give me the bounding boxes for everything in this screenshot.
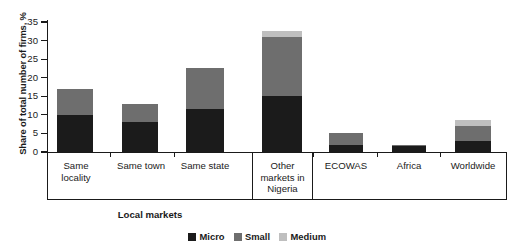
bar-7 — [455, 120, 491, 152]
legend-label: Micro — [200, 232, 225, 241]
bar-segment-micro — [262, 96, 302, 152]
legend-swatch-icon — [234, 233, 242, 241]
y-axis-line — [47, 20, 48, 154]
bar-segment-micro — [186, 109, 224, 152]
bar-segment-small — [329, 133, 363, 144]
legend-swatch-icon — [279, 233, 287, 241]
y-tick-label: 0 — [18, 147, 38, 157]
bar-segment-micro — [122, 122, 158, 152]
group-separator-mid2 — [312, 153, 313, 199]
y-tick-mark — [41, 114, 47, 115]
y-tick-label: 10 — [18, 110, 38, 120]
legend-swatch-icon — [188, 233, 196, 241]
x-tick-mark — [377, 152, 378, 157]
legend-label: Small — [245, 232, 270, 241]
bar-3 — [186, 68, 224, 152]
category-label-2: Same town — [110, 160, 172, 172]
group-underline-left — [47, 199, 253, 200]
legend-item-medium: Medium — [279, 232, 326, 241]
category-label-5: ECOWAS — [314, 160, 378, 172]
category-label-4: Other markets in Nigeria — [252, 160, 313, 195]
y-tick-mark — [41, 59, 47, 60]
bar-segment-small — [122, 104, 158, 123]
bar-segment-small — [455, 126, 491, 141]
bar-1 — [57, 89, 93, 152]
y-tick-label: 30 — [18, 36, 38, 46]
x-tick-mark — [440, 152, 441, 157]
group-separator-left — [47, 153, 48, 199]
group-separator-right — [506, 153, 507, 199]
y-tick-mark — [41, 40, 47, 41]
bar-segment-small — [262, 37, 302, 96]
bar-segment-small — [57, 89, 93, 115]
bar-segment-micro — [392, 146, 426, 152]
group-underline-mid — [252, 199, 313, 200]
legend-item-micro: Micro — [188, 232, 225, 241]
y-tick-mark — [41, 133, 47, 134]
x-tick-mark — [110, 152, 111, 157]
bar-segment-small — [186, 68, 224, 109]
category-label-1: Same locality — [47, 160, 105, 183]
bar-2 — [122, 104, 158, 152]
y-tick-label: 35 — [18, 17, 38, 27]
y-tick-mark — [41, 21, 47, 22]
y-tick-mark — [41, 96, 47, 97]
chart-legend: MicroSmallMedium — [0, 232, 514, 241]
y-tick-label: 15 — [18, 91, 38, 101]
category-label-6: Africa — [377, 160, 441, 172]
y-tick-label: 20 — [18, 73, 38, 83]
bar-5 — [329, 133, 363, 152]
legend-label: Medium — [291, 232, 326, 241]
x-tick-mark — [313, 152, 314, 157]
y-tick-mark — [41, 77, 47, 78]
bar-segment-micro — [455, 141, 491, 152]
legend-item-small: Small — [234, 232, 271, 241]
category-label-3: Same state — [174, 160, 236, 172]
x-axis-line — [47, 152, 507, 153]
bar-6 — [392, 145, 426, 152]
x-tick-mark — [174, 152, 175, 157]
bar-segment-micro — [329, 145, 363, 152]
bar-segment-micro — [57, 115, 93, 152]
category-label-7: Worldwide — [439, 160, 507, 172]
bar-chart: Share of total number of firms, % 051015… — [0, 0, 514, 250]
group-separator-mid1 — [252, 153, 253, 199]
y-tick-label: 25 — [18, 54, 38, 64]
bar-4 — [262, 31, 302, 152]
x-axis-title: Local markets — [20, 209, 280, 220]
y-tick-label: 5 — [18, 128, 38, 138]
group-underline-right — [312, 199, 507, 200]
